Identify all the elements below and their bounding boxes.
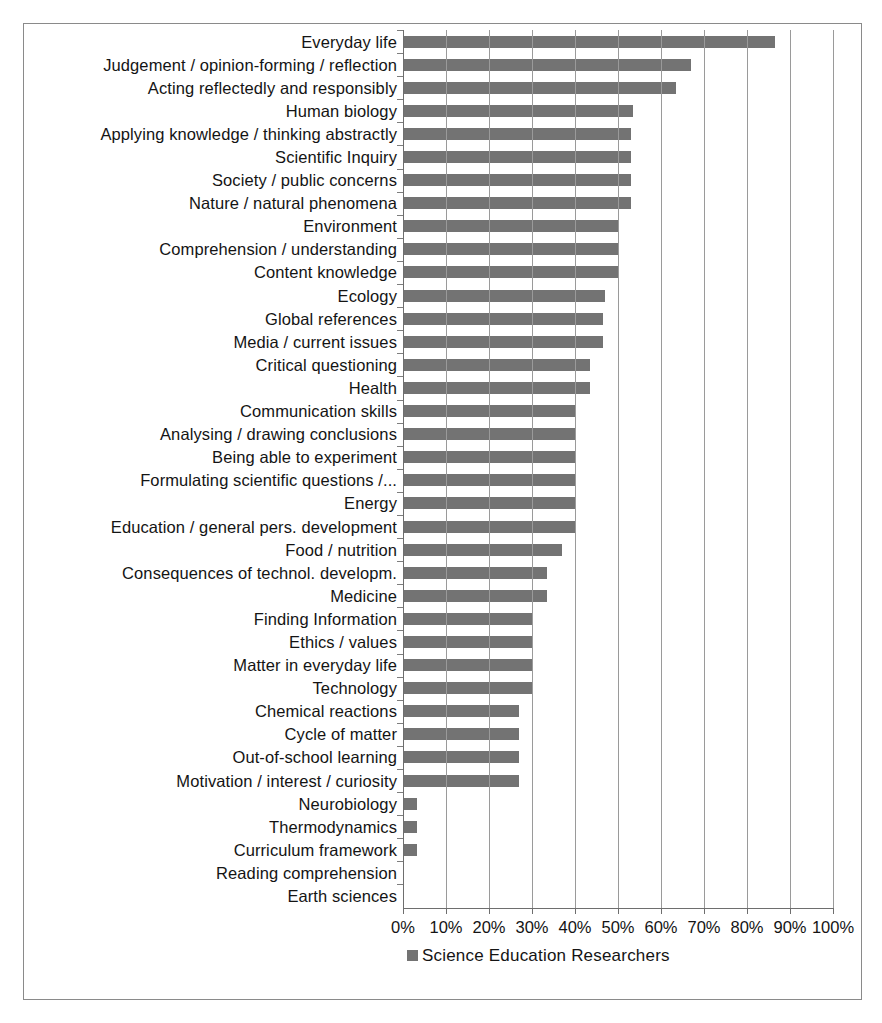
category-label: Neurobiology — [299, 795, 397, 813]
category-label: Education / general pers. development — [111, 518, 397, 536]
x-tick-mark — [704, 908, 705, 914]
x-tick-label: 100% — [812, 918, 854, 937]
bar — [403, 636, 532, 648]
bar-row: Judgement / opinion-forming / reflection — [0, 53, 882, 76]
bar — [403, 313, 603, 325]
bar-row: Technology — [0, 677, 882, 700]
x-tick-label: 30% — [515, 918, 548, 937]
category-label: Reading comprehension — [216, 864, 397, 882]
bar — [403, 382, 590, 394]
bar — [403, 151, 631, 163]
bar — [403, 82, 676, 94]
bar-row: Everyday life — [0, 30, 882, 53]
bar — [403, 567, 547, 579]
gridline — [489, 30, 490, 908]
bar — [403, 105, 633, 117]
category-label: Comprehension / understanding — [159, 240, 397, 258]
bar-row: Comprehension / understanding — [0, 238, 882, 261]
category-label: Chemical reactions — [255, 702, 397, 720]
bar-row: Applying knowledge / thinking abstractly — [0, 122, 882, 145]
category-label: Nature / natural phenomena — [189, 194, 397, 212]
x-tick-mark — [618, 908, 619, 914]
bar-row: Thermodynamics — [0, 815, 882, 838]
bar — [403, 590, 547, 602]
category-label: Acting reflectedly and responsibly — [148, 79, 397, 97]
gridline — [575, 30, 576, 908]
bar — [403, 174, 631, 186]
category-label: Consequences of technol. developm. — [122, 564, 397, 582]
category-label: Content knowledge — [254, 263, 397, 281]
x-tick-label: 60% — [644, 918, 677, 937]
bar — [403, 751, 519, 763]
category-label: Society / public concerns — [212, 171, 397, 189]
y-axis-line — [403, 30, 404, 908]
category-label: Analysing / drawing conclusions — [160, 425, 397, 443]
bar-row: Curriculum framework — [0, 838, 882, 861]
gridline — [661, 30, 662, 908]
category-label: Environment — [303, 217, 397, 235]
category-label: Formulating scientific questions /... — [140, 471, 397, 489]
bar-row: Nature / natural phenomena — [0, 192, 882, 215]
gridline — [790, 30, 791, 908]
x-tick-label: 90% — [773, 918, 806, 937]
bar-row: Reading comprehension — [0, 861, 882, 884]
category-label: Thermodynamics — [269, 818, 397, 836]
category-label: Scientific Inquiry — [275, 148, 397, 166]
legend-label: Science Education Researchers — [422, 946, 670, 966]
bar — [403, 220, 618, 232]
bar-row: Acting reflectedly and responsibly — [0, 76, 882, 99]
bar-row: Environment — [0, 215, 882, 238]
bar-row: Medicine — [0, 584, 882, 607]
bar-row: Cycle of matter — [0, 723, 882, 746]
category-label: Communication skills — [240, 402, 397, 420]
x-tick-mark — [833, 908, 834, 914]
bar-chart: Everyday lifeJudgement / opinion-forming… — [0, 0, 882, 1023]
square-marker-icon — [407, 950, 418, 961]
x-tick-mark — [489, 908, 490, 914]
bar — [403, 243, 618, 255]
bar-row: Consequences of technol. developm. — [0, 561, 882, 584]
bar-row: Finding Information — [0, 607, 882, 630]
category-label: Medicine — [330, 587, 397, 605]
gridline — [747, 30, 748, 908]
category-label: Technology — [313, 679, 397, 697]
bar-row: Ethics / values — [0, 630, 882, 653]
category-label: Curriculum framework — [234, 841, 397, 859]
gridline — [532, 30, 533, 908]
x-tick-label: 10% — [429, 918, 462, 937]
category-label: Critical questioning — [256, 356, 397, 374]
bar — [403, 613, 532, 625]
bar — [403, 659, 532, 671]
x-tick-label: 40% — [558, 918, 591, 937]
x-tick-mark — [790, 908, 791, 914]
category-label: Applying knowledge / thinking abstractly — [100, 125, 397, 143]
bar — [403, 705, 519, 717]
x-tick-mark — [446, 908, 447, 914]
category-label: Matter in everyday life — [233, 656, 397, 674]
category-label: Media / current issues — [233, 333, 397, 351]
bar-row: Energy — [0, 492, 882, 515]
bar-row: Formulating scientific questions /... — [0, 469, 882, 492]
bar-row: Human biology — [0, 99, 882, 122]
bar-row: Media / current issues — [0, 330, 882, 353]
bar-row: Neurobiology — [0, 792, 882, 815]
category-label: Ecology — [338, 287, 397, 305]
gridline — [446, 30, 447, 908]
x-tick-label: 0% — [391, 918, 415, 937]
bar — [403, 728, 519, 740]
x-tick-label: 80% — [730, 918, 763, 937]
bar-row: Communication skills — [0, 400, 882, 423]
category-label: Cycle of matter — [285, 725, 397, 743]
bar-row: Earth sciences — [0, 884, 882, 907]
bar-row: Being able to experiment — [0, 446, 882, 469]
x-tick-mark — [532, 908, 533, 914]
bar-row: Education / general pers. development — [0, 515, 882, 538]
bar — [403, 266, 618, 278]
bar — [403, 844, 417, 856]
bar-row: Global references — [0, 307, 882, 330]
bar-row: Analysing / drawing conclusions — [0, 423, 882, 446]
bar — [403, 682, 532, 694]
bar-row: Food / nutrition — [0, 538, 882, 561]
bar-row: Content knowledge — [0, 261, 882, 284]
figure: Everyday lifeJudgement / opinion-forming… — [0, 0, 882, 1023]
